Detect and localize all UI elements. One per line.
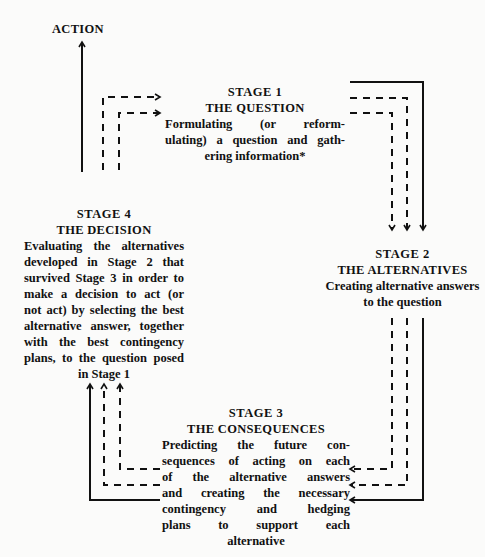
stage-4-line: developed in Stage 2 that: [24, 254, 184, 270]
dashed-stage2-to-stage3-outer: [350, 318, 407, 485]
stage-4-line: survived Stage 3 in order to: [24, 270, 184, 286]
action-label: ACTION: [52, 22, 104, 37]
stage-3-label: STAGE 3: [162, 405, 350, 421]
stage-2-block: STAGE 2 THE ALTERNATIVES Creating altern…: [320, 246, 485, 310]
dashed-stage1-to-stage2-outer: [350, 98, 407, 230]
arrow-stage1-to-stage2: [350, 82, 423, 230]
stage-4-line: not act) by selecting the best: [24, 302, 184, 318]
stage-4-line: alternative answer, together: [24, 318, 184, 334]
stage-4-line: Evaluating the alternatives: [24, 238, 184, 254]
dashed-stage3-to-stage4-inner: [120, 384, 160, 469]
stage-2-line: to the question: [320, 294, 485, 310]
stage-1-line: ulating) a question and gath-: [165, 132, 345, 148]
stage-1-label: STAGE 1: [165, 84, 345, 100]
stage-3-line: contingency and hedging: [162, 501, 350, 517]
stage-4-line: in Stage 1: [24, 366, 184, 382]
stage-1-line: ering information*: [165, 148, 345, 164]
stage-2-line: Creating alternative answers: [320, 278, 485, 294]
dashed-stage1-to-stage2-inner: [350, 113, 392, 230]
stage-3-block: STAGE 3 THE CONSEQUENCES Predicting the …: [162, 405, 350, 549]
stage-2-title: THE ALTERNATIVES: [320, 262, 485, 278]
dashed-stage2-to-stage3-inner: [350, 318, 392, 469]
feedback-arrow-outer-to-stage1: [103, 97, 160, 170]
stage-1-block: STAGE 1 THE QUESTION Formulating (or ref…: [165, 84, 345, 164]
stage-2-label: STAGE 2: [320, 246, 485, 262]
stage-4-line: with the best contingency: [24, 334, 184, 350]
stage-3-line: and creating the necessary: [162, 485, 350, 501]
stage-4-block: STAGE 4 THE DECISION Evaluating the alte…: [24, 206, 184, 382]
stage-3-line: of the alternative answers: [162, 469, 350, 485]
stage-3-line: plans to support each: [162, 517, 350, 533]
stage-1-title: THE QUESTION: [165, 100, 345, 116]
stage-1-description: Formulating (or reform- ulating) a quest…: [165, 116, 345, 164]
stage-4-line: plans, to the question posed: [24, 350, 184, 366]
feedback-arrow-inner-to-stage1: [119, 113, 160, 170]
stage-4-line: make a decision to act (or: [24, 286, 184, 302]
stage-3-title: THE CONSEQUENCES: [162, 421, 350, 437]
stage-3-line: Predicting the future con-: [162, 437, 350, 453]
arrow-stage2-to-stage3: [350, 318, 423, 500]
stage-4-title: THE DECISION: [24, 222, 184, 238]
arrow-stage3-to-stage4: [90, 384, 160, 500]
stage-3-line: sequences of acting on each: [162, 453, 350, 469]
stage-4-label: STAGE 4: [24, 206, 184, 222]
stage-1-line: Formulating (or reform-: [165, 116, 345, 132]
stage-3-line: alternative: [162, 533, 350, 549]
